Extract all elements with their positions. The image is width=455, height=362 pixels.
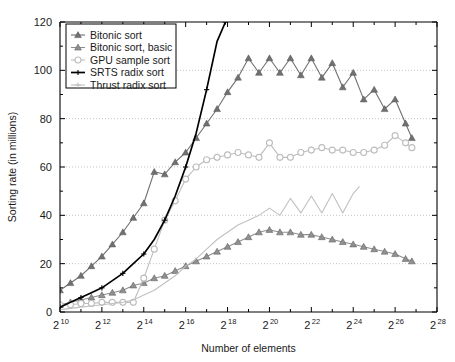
data-point-marker bbox=[141, 275, 147, 281]
legend-marker-2 bbox=[75, 57, 81, 63]
y-tick-label: 80 bbox=[40, 113, 52, 125]
data-point-marker bbox=[214, 154, 220, 160]
data-point-marker bbox=[382, 142, 388, 148]
data-point-marker bbox=[246, 152, 252, 158]
data-point-marker bbox=[256, 154, 262, 160]
data-point-marker bbox=[392, 133, 398, 139]
y-tick-label: 40 bbox=[40, 209, 52, 221]
x-tick-exponent: 20 bbox=[270, 317, 278, 326]
x-tick-exponent: 26 bbox=[396, 317, 404, 326]
x-tick-exponent: 10 bbox=[61, 317, 69, 326]
data-point-marker bbox=[287, 154, 293, 160]
x-tick-exponent: 24 bbox=[354, 317, 362, 326]
x-tick-exponent: 14 bbox=[144, 317, 152, 326]
y-tick-label: 20 bbox=[40, 258, 52, 270]
x-axis-label: Number of elements bbox=[201, 342, 296, 354]
data-point-marker bbox=[308, 147, 314, 153]
legend-label: Bitonic sort, basic bbox=[90, 41, 172, 53]
sorting-rate-line-chart: 210212214216218220222224226228 020406080… bbox=[0, 0, 455, 362]
data-point-marker bbox=[78, 301, 84, 307]
data-point-marker bbox=[225, 152, 231, 158]
data-point-marker bbox=[109, 299, 115, 305]
data-point-marker bbox=[298, 150, 304, 156]
legend-label: Bitonic sort bbox=[90, 29, 142, 41]
x-tick-exponent: 28 bbox=[438, 317, 446, 326]
data-point-marker bbox=[403, 140, 409, 146]
y-axis-label: Sorting rate (in millions) bbox=[6, 112, 18, 222]
chart-legend: Bitonic sortBitonic sort, basicGPU sampl… bbox=[66, 24, 176, 91]
x-tick-label: 2 bbox=[137, 319, 143, 331]
data-point-marker bbox=[193, 164, 199, 170]
data-point-marker bbox=[319, 145, 325, 151]
data-point-marker bbox=[204, 157, 210, 163]
legend-label: Thrust radix sort bbox=[90, 79, 166, 91]
data-point-marker bbox=[350, 150, 356, 156]
x-tick-label: 2 bbox=[179, 319, 185, 331]
chart-container: 210212214216218220222224226228 020406080… bbox=[0, 0, 455, 362]
x-tick-exponent: 22 bbox=[312, 317, 320, 326]
legend-label: SRTS radix sort bbox=[90, 66, 164, 78]
data-point-marker bbox=[340, 147, 346, 153]
y-tick-label: 0 bbox=[46, 306, 52, 318]
data-point-marker bbox=[361, 150, 367, 156]
data-point-marker bbox=[329, 147, 335, 153]
data-point-marker bbox=[151, 246, 157, 252]
data-point-marker bbox=[235, 150, 241, 156]
x-tick-label: 2 bbox=[95, 319, 101, 331]
y-tick-label: 100 bbox=[34, 64, 52, 76]
x-tick-exponent: 16 bbox=[186, 317, 194, 326]
legend-label: GPU sample sort bbox=[90, 54, 170, 66]
x-tick-label: 2 bbox=[304, 319, 310, 331]
data-point-marker bbox=[277, 154, 283, 160]
y-tick-label: 60 bbox=[40, 161, 52, 173]
x-tick-exponent: 18 bbox=[228, 317, 236, 326]
data-point-marker bbox=[183, 176, 189, 182]
x-tick-label: 2 bbox=[53, 319, 59, 331]
data-point-marker bbox=[371, 147, 377, 153]
x-tick-exponent: 12 bbox=[102, 317, 110, 326]
y-tick-label: 120 bbox=[34, 16, 52, 28]
x-tick-label: 2 bbox=[388, 319, 394, 331]
x-tick-label: 2 bbox=[221, 319, 227, 331]
data-point-marker bbox=[266, 140, 272, 146]
x-tick-label: 2 bbox=[430, 319, 436, 331]
x-tick-label: 2 bbox=[262, 319, 268, 331]
x-tick-label: 2 bbox=[346, 319, 352, 331]
data-point-marker bbox=[409, 145, 415, 151]
